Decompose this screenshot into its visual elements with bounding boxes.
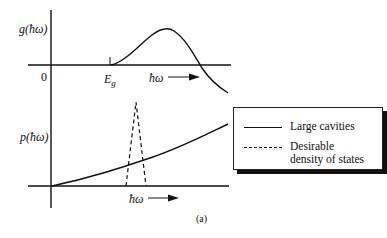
gain-curve bbox=[111, 29, 228, 93]
legend-label: Desirable density of states bbox=[290, 140, 364, 166]
eg-label-subscript: g bbox=[111, 78, 116, 88]
dashed-line-swatch bbox=[244, 147, 282, 148]
solid-line-swatch bbox=[244, 127, 282, 128]
legend-item-large-cavities: Large cavities bbox=[234, 120, 355, 133]
large-cavities-curve bbox=[52, 124, 228, 186]
top-arrow-head-icon bbox=[189, 74, 200, 81]
legend-box: Large cavities Desirable density of stat… bbox=[233, 107, 383, 170]
bottom-arrow-head-icon bbox=[168, 195, 179, 202]
desirable-density-curve bbox=[126, 102, 146, 186]
legend-label-line1: Desirable bbox=[290, 140, 364, 153]
figure-caption: (a) bbox=[196, 213, 207, 224]
top-x-axis-label: ħω bbox=[149, 72, 163, 84]
legend-label: Large cavities bbox=[290, 120, 355, 133]
legend-label-line2: density of states bbox=[290, 153, 364, 166]
bottom-y-axis-label: p(ħω) bbox=[20, 131, 48, 143]
bottom-x-axis-label: ħω bbox=[129, 193, 143, 205]
top-y-axis-label: g(ħω) bbox=[19, 23, 47, 35]
origin-label: 0 bbox=[41, 71, 47, 83]
eg-label: Eg bbox=[104, 73, 116, 88]
legend-item-desirable-density: Desirable density of states bbox=[234, 140, 364, 166]
